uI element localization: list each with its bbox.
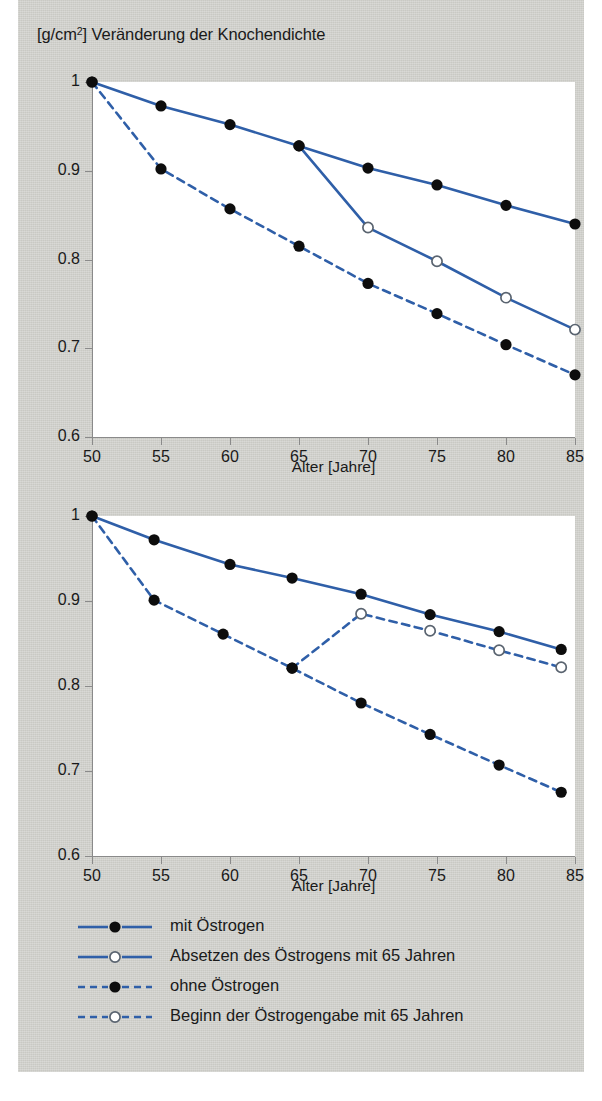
series-line (299, 146, 575, 330)
series-layer (18, 495, 584, 916)
series-line (92, 516, 561, 649)
data-point-filled (155, 163, 166, 174)
data-point-filled (362, 278, 373, 289)
data-point-open (494, 645, 504, 655)
data-point-filled (293, 140, 304, 151)
data-point-open (356, 609, 366, 619)
figure-title-prefix: [g/cm (37, 25, 77, 43)
data-point-open (363, 222, 373, 232)
legend-sample-glyph (78, 912, 152, 942)
data-point-filled (149, 595, 160, 606)
legend-item: Absetzen des Östrogens mit 65 Jahren (18, 942, 584, 972)
legend-sample-glyph (78, 972, 152, 1002)
data-point-filled (425, 609, 436, 620)
data-point-filled (494, 759, 505, 770)
data-point-filled (356, 697, 367, 708)
series-layer (18, 60, 584, 497)
legend-sample-glyph (78, 1002, 152, 1032)
data-point-filled (224, 203, 235, 214)
data-point-filled (500, 339, 511, 350)
data-point-filled (431, 308, 442, 319)
figure-title-suffix: ] Veränderung der Knochendichte (83, 25, 326, 43)
legend-sample (78, 912, 152, 942)
data-point-filled (155, 100, 166, 111)
data-point-filled (362, 162, 373, 173)
data-point-filled (494, 626, 505, 637)
legend-label: Absetzen des Östrogens mit 65 Jahren (170, 946, 455, 965)
legend: mit ÖstrogenAbsetzen des Östrogens mit 6… (18, 912, 584, 1032)
series-line (92, 82, 575, 375)
figure-panel: [g/cm2] Veränderung der Knochendichte 0.… (18, 0, 584, 1072)
data-point-filled (569, 218, 580, 229)
data-point-filled (556, 787, 567, 798)
data-point-open (425, 626, 435, 636)
legend-sample (78, 972, 152, 1002)
legend-item: ohne Östrogen (18, 972, 584, 1002)
data-point-filled (500, 200, 511, 211)
series-line (92, 516, 561, 792)
data-point-filled (287, 663, 298, 674)
data-point-filled (224, 119, 235, 130)
data-point-open (570, 325, 580, 335)
legend-marker-filled (109, 921, 120, 932)
legend-item: mit Östrogen (18, 912, 584, 942)
data-point-filled (569, 369, 580, 380)
legend-sample-glyph (78, 942, 152, 972)
data-point-filled (556, 644, 567, 655)
data-point-filled (356, 589, 367, 600)
data-point-filled (431, 179, 442, 190)
data-point-filled (224, 559, 235, 570)
chart-bottom: 0.60.70.80.915055606570758085Alter [Jahr… (18, 495, 584, 895)
data-point-open (432, 256, 442, 266)
figure-title: [g/cm2] Veränderung der Knochendichte (37, 25, 325, 44)
data-point-filled (287, 572, 298, 583)
legend-label: mit Östrogen (170, 916, 264, 935)
legend-item: Beginn der Östrogengabe mit 65 Jahren (18, 1002, 584, 1032)
legend-marker-filled (109, 981, 120, 992)
data-point-filled (86, 510, 97, 521)
legend-sample (78, 1002, 152, 1032)
data-point-filled (86, 76, 97, 87)
series-line (292, 614, 561, 668)
legend-marker-open (110, 952, 120, 962)
data-point-filled (425, 729, 436, 740)
data-point-filled (293, 241, 304, 252)
data-point-open (556, 662, 566, 672)
data-point-filled (218, 629, 229, 640)
data-point-filled (149, 534, 160, 545)
legend-label: Beginn der Östrogengabe mit 65 Jahren (170, 1006, 464, 1025)
legend-marker-open (110, 1012, 120, 1022)
legend-sample (78, 942, 152, 972)
data-point-open (501, 293, 511, 303)
chart-top: 0.60.70.80.915055606570758085Alter [Jahr… (18, 60, 584, 480)
legend-label: ohne Östrogen (170, 976, 279, 995)
